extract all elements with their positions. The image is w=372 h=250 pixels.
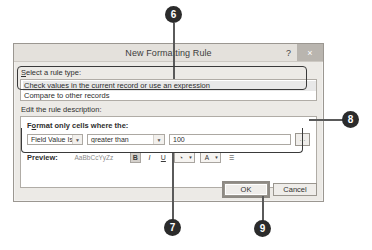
- cancel-button[interactable]: Cancel: [273, 183, 317, 196]
- rule-description-label: Edit the rule description:: [21, 105, 317, 114]
- preview-label: Preview:: [27, 153, 58, 162]
- font-color-letter: A: [205, 155, 209, 161]
- callout-7-leader: [172, 152, 174, 221]
- dialog-footer: OK Cancel: [224, 183, 317, 196]
- italic-icon[interactable]: I: [144, 152, 155, 163]
- window-buttons: ? ×: [280, 44, 323, 61]
- callout-9-leader: [262, 196, 264, 222]
- help-icon[interactable]: ?: [280, 44, 297, 61]
- font-color-icon: A: [201, 153, 213, 162]
- annotation-bracket-rule-type: [17, 66, 307, 90]
- callout-8-leader: [309, 119, 344, 121]
- chevron-down-icon[interactable]: ▼: [213, 153, 220, 162]
- callout-7-number: 7: [170, 223, 176, 233]
- font-color-button[interactable]: A ▼: [200, 152, 221, 163]
- callout-8: 8: [342, 111, 359, 128]
- callout-9-number: 9: [260, 224, 266, 234]
- callout-7: 7: [164, 219, 181, 236]
- callout-9: 9: [254, 220, 271, 237]
- fill-color-icon: ◔: [175, 153, 187, 162]
- preview-sample-text: AaBbCcYyZz: [64, 154, 124, 161]
- dialog-title: New Formatting Rule: [125, 48, 211, 58]
- format-toolbar: B I U ◔ ▼ A ▼ ☰: [130, 152, 237, 163]
- callout-6: 6: [165, 6, 182, 23]
- rule-type-option-1[interactable]: Compare to other records: [23, 91, 316, 101]
- bold-icon[interactable]: B: [130, 152, 141, 163]
- dialog-titlebar[interactable]: New Formatting Rule ? ×: [14, 44, 323, 62]
- callout-6-number: 6: [171, 10, 177, 20]
- close-icon[interactable]: ×: [297, 44, 323, 61]
- screenshot-root: 6 8 7 9 New Formatting Rule ? × Select a…: [0, 0, 372, 250]
- fill-color-button[interactable]: ◔ ▼: [174, 152, 195, 163]
- chevron-down-icon[interactable]: ▼: [187, 153, 194, 162]
- clear-format-icon[interactable]: ☰: [226, 152, 237, 163]
- annotation-bracket-rule-description: [21, 128, 303, 153]
- callout-8-number: 8: [348, 115, 354, 125]
- underline-icon[interactable]: U: [158, 152, 169, 163]
- preview-row: Preview: AaBbCcYyZz B I U ◔ ▼ A: [27, 152, 310, 163]
- ok-button[interactable]: OK: [224, 183, 268, 196]
